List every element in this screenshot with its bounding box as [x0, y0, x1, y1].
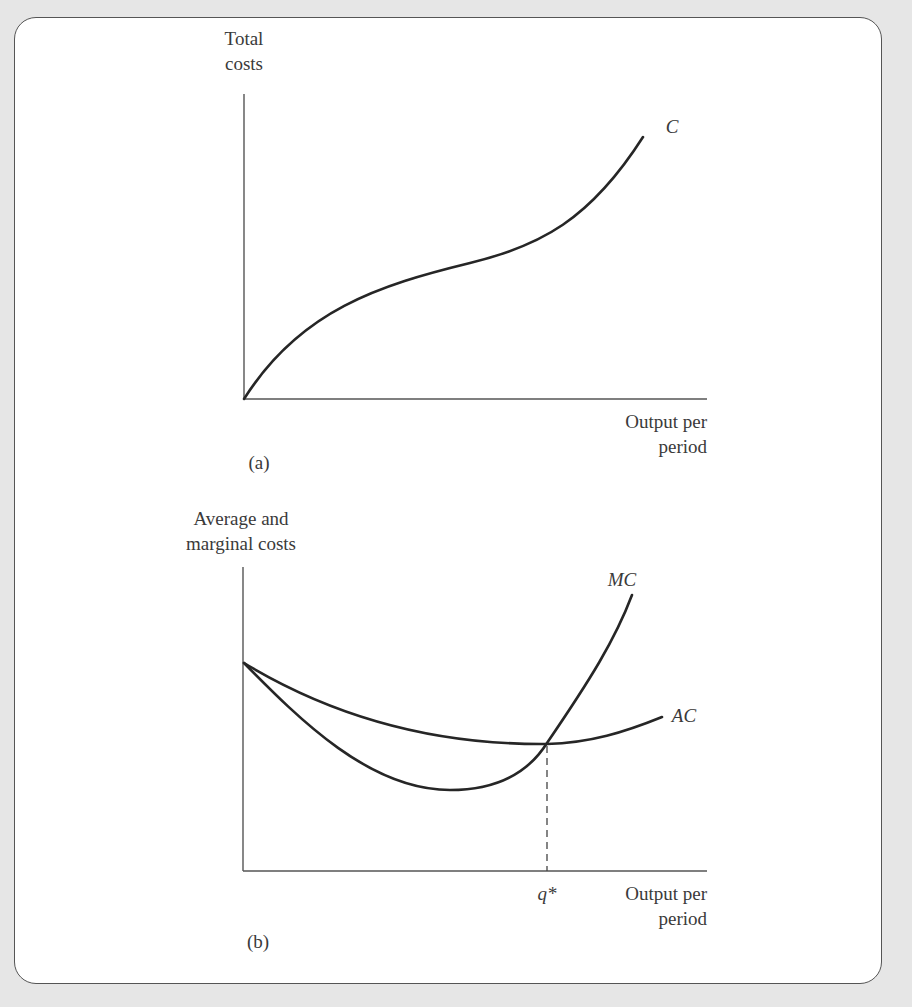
total-cost-curve-C	[244, 137, 643, 399]
average-cost-curve-AC	[244, 663, 662, 744]
panel-a-y-label-line-1: Total	[225, 28, 264, 49]
q-star-label: q*	[538, 883, 558, 904]
panel-b: Average and marginal costs AC MC q* Outp…	[186, 508, 708, 953]
panel-a-y-label-line-2: costs	[225, 53, 263, 74]
panel-a-x-label-line-1: Output per	[625, 411, 707, 432]
panel-a: Total costs C Output per period (a)	[225, 28, 708, 474]
panel-b-y-label-line-1: Average and	[193, 508, 289, 529]
panel-a-x-label-line-2: period	[658, 436, 707, 457]
curve-label-C: C	[666, 116, 679, 137]
panel-b-x-label-line-1: Output per	[625, 883, 707, 904]
panel-b-y-label-line-2: marginal costs	[186, 533, 296, 554]
curve-label-MC: MC	[607, 569, 637, 590]
panel-b-caption: (b)	[247, 931, 269, 953]
curve-label-AC: AC	[670, 705, 697, 726]
panel-b-x-label-line-2: period	[658, 908, 707, 929]
cost-curves-figure: Total costs C Output per period (a) Aver…	[0, 0, 912, 1007]
panel-a-caption: (a)	[248, 452, 269, 474]
